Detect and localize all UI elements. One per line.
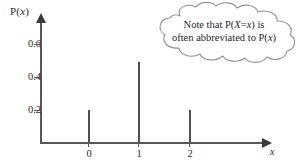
x-tick-label: 0	[77, 148, 101, 159]
x-tick-label: 1	[127, 148, 151, 159]
callout-line2-prefix: often abbreviated to P(	[172, 32, 268, 43]
callout-cloud: Note that P(X=x) is often abbreviated to…	[146, 2, 302, 64]
spike-bar	[189, 110, 191, 142]
y-axis-title-prefix: P(	[10, 5, 20, 17]
callout-line-2: often abbreviated to P(x)	[146, 31, 302, 44]
x-tick-mark	[88, 142, 89, 147]
y-tick-mark	[34, 44, 41, 45]
x-axis-line	[40, 142, 265, 144]
y-tick-0.2: 0.2	[0, 105, 41, 115]
x-tick-mark	[189, 142, 190, 147]
spike-bar	[88, 110, 90, 142]
callout-line1-suffix: ) is	[251, 19, 264, 30]
y-axis-arrow-icon	[36, 13, 46, 23]
y-tick-0.6: 0.6	[0, 39, 41, 49]
callout-line2-suffix: )	[273, 32, 277, 43]
y-tick-mark	[34, 77, 41, 78]
callout-line-1: Note that P(X=x) is	[146, 18, 302, 31]
callout-line1-prefix: Note that P(	[184, 19, 235, 30]
y-tick-mark	[34, 110, 41, 111]
spike-bar	[138, 62, 140, 142]
y-tick-0.4: 0.4	[0, 72, 41, 82]
y-axis-title: P(x)	[10, 5, 29, 17]
callout-text: Note that P(X=x) is often abbreviated to…	[146, 18, 302, 44]
x-tick-mark	[138, 142, 139, 147]
x-tick-label: 2	[178, 148, 202, 159]
y-axis-title-suffix: )	[25, 5, 29, 17]
figure-canvas: P(x) x 0.6 0.4 0.2 0 1 2 Note that P(X=x…	[0, 0, 304, 168]
x-axis-title: x	[270, 146, 274, 157]
